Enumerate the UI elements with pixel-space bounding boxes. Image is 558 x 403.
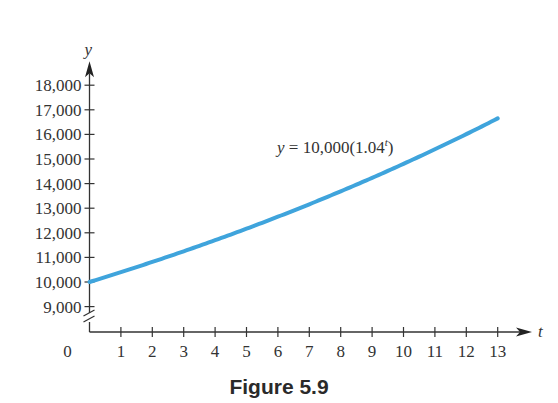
x-tick-label: 6 bbox=[274, 342, 283, 361]
x-tick-label: 3 bbox=[179, 342, 188, 361]
y-tick-label: 15,000 bbox=[35, 150, 82, 169]
x-tick-label: 12 bbox=[458, 342, 475, 361]
y-tick-label: 17,000 bbox=[35, 101, 82, 120]
y-tick-label: 18,000 bbox=[35, 76, 82, 95]
x-tick-label: 7 bbox=[305, 342, 314, 361]
x-tick-label: 2 bbox=[148, 342, 157, 361]
equation-y: y bbox=[275, 138, 285, 157]
origin-label: 0 bbox=[63, 342, 72, 361]
exponential-growth-chart: y t 0 12345678910111213 9,00010,00011,00… bbox=[0, 0, 558, 403]
x-tick-label: 5 bbox=[242, 342, 251, 361]
axis-break-mark bbox=[84, 316, 95, 322]
x-tick-label: 9 bbox=[368, 342, 377, 361]
equation-suffix: ) bbox=[388, 138, 394, 157]
y-tick-label: 11,000 bbox=[35, 248, 81, 267]
y-axis-label: y bbox=[83, 40, 93, 59]
y-tick-label: 9,000 bbox=[43, 298, 81, 317]
x-axis-label: t bbox=[538, 322, 544, 341]
y-tick-label: 10,000 bbox=[35, 273, 82, 292]
equation-prefix: = 10,000(1.04 bbox=[285, 138, 386, 157]
x-tick-label: 4 bbox=[211, 342, 220, 361]
x-tick-label: 11 bbox=[427, 342, 443, 361]
axes: y t 0 bbox=[63, 40, 544, 361]
y-ticks: 9,00010,00011,00012,00013,00014,00015,00… bbox=[35, 76, 95, 316]
y-tick-label: 12,000 bbox=[35, 224, 82, 243]
figure-caption: Figure 5.9 bbox=[0, 375, 558, 399]
x-tick-label: 13 bbox=[489, 342, 506, 361]
y-tick-label: 13,000 bbox=[35, 199, 82, 218]
y-tick-label: 16,000 bbox=[35, 125, 82, 144]
equation-annotation: y = 10,000(1.04t) bbox=[275, 136, 394, 157]
x-tick-label: 8 bbox=[336, 342, 345, 361]
x-tick-label: 1 bbox=[117, 342, 126, 361]
x-tick-label: 10 bbox=[395, 342, 412, 361]
y-tick-label: 14,000 bbox=[35, 175, 82, 194]
